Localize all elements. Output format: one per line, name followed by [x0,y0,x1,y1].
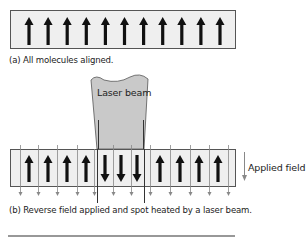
panel-a-box [11,11,236,49]
laser-beam-label: Laser beam [97,87,151,98]
magneto-optical-diagram: (a) All molecules aligned. Laser beam Ap… [0,0,307,238]
panel-b-box [11,145,236,203]
panel-a-caption: (a) All molecules aligned. [9,54,113,65]
applied-field-label: Applied field [248,162,305,173]
panel-b-caption: (b) Reverse field applied and spot heate… [9,204,252,215]
applied-field-arrow-icon [242,152,247,181]
